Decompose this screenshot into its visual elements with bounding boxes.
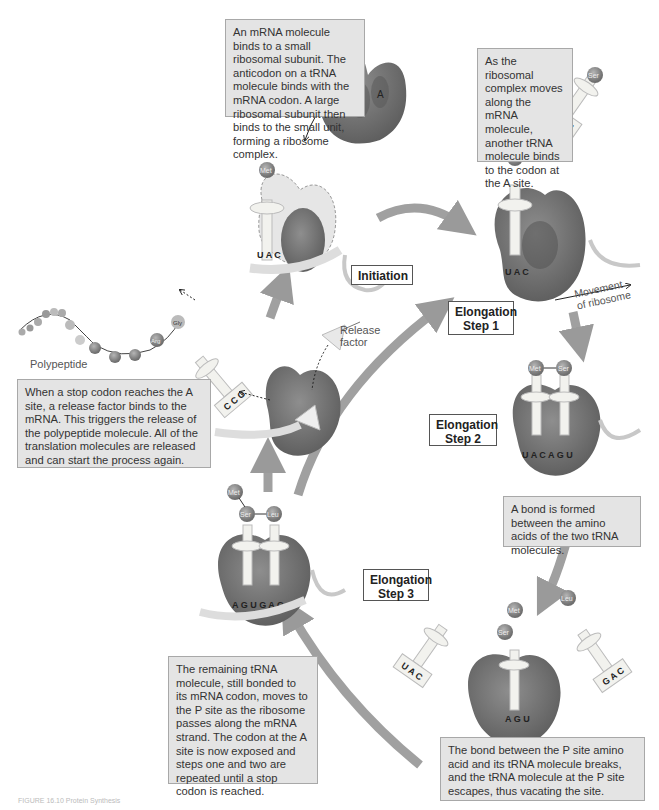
anticodon-label: U A C	[257, 250, 281, 260]
stage-initiation: Initiation	[351, 265, 413, 285]
met-label: Met	[260, 167, 272, 174]
arg-label: Arg	[151, 338, 160, 344]
note-elongation-3: The remaining tRNA molecule, still bonde…	[168, 656, 318, 784]
release-factor-label: Release factor	[340, 324, 380, 348]
anticodon-label: U A C	[505, 267, 529, 277]
polypeptide-label: Polypeptide	[30, 358, 88, 370]
ser-label: Ser	[498, 629, 510, 636]
bond-break-complex: Ser Met A G U U A C G A C Leu	[393, 590, 632, 746]
site-a-label: A	[377, 89, 384, 100]
polypeptide-chain: Arg Gly	[19, 308, 186, 363]
stage-initiation-label: Initiation	[358, 269, 408, 283]
stage-label: Elongation	[436, 418, 490, 432]
anticodon-label: U A C A G U	[522, 450, 573, 460]
met-label: Met	[529, 365, 541, 372]
ser-label: Ser	[588, 72, 600, 79]
stage-label: Step 3	[370, 587, 422, 601]
ser-label: Ser	[240, 511, 252, 518]
release-factor-line1: Release	[340, 324, 380, 336]
leu-label: Leu	[561, 595, 573, 602]
stage-label: Step 1	[455, 319, 507, 333]
stage-label: Elongation	[455, 305, 507, 319]
note-elongation-1: As the ribosomal complex moves along the…	[477, 48, 573, 162]
stage-label: Elongation	[370, 573, 422, 587]
ser-label: Ser	[558, 365, 570, 372]
note-initiation: An mRNA molecule binds to a small riboso…	[225, 19, 365, 117]
note-elongation-2: A bond is formed between the amino acids…	[503, 496, 641, 547]
elongation-3-complex: Met Ser Leu A G U G A C	[200, 484, 345, 626]
met-label: Met	[228, 489, 240, 496]
stage-label: Step 2	[436, 432, 490, 446]
met-label: Met	[508, 607, 520, 614]
stage-elongation-3: Elongation Step 3	[363, 569, 429, 601]
stage-elongation-2: Elongation Step 2	[429, 414, 497, 446]
note-termination: When a stop codon reaches the A site, a …	[17, 379, 211, 468]
release-factor-line2: factor	[340, 336, 380, 348]
note-bond-break: The bond between the P site amino acid a…	[440, 737, 645, 801]
figure-caption: FIGURE 16.10 Protein Synthesis	[18, 797, 120, 804]
stage-elongation-1: Elongation Step 1	[448, 301, 514, 335]
anticodon-label: A G U	[505, 714, 530, 724]
gly-label: Gly	[173, 320, 182, 326]
elongation-2-complex: Met Ser U A C A G U	[513, 360, 640, 476]
leu-label: Leu	[267, 511, 279, 518]
